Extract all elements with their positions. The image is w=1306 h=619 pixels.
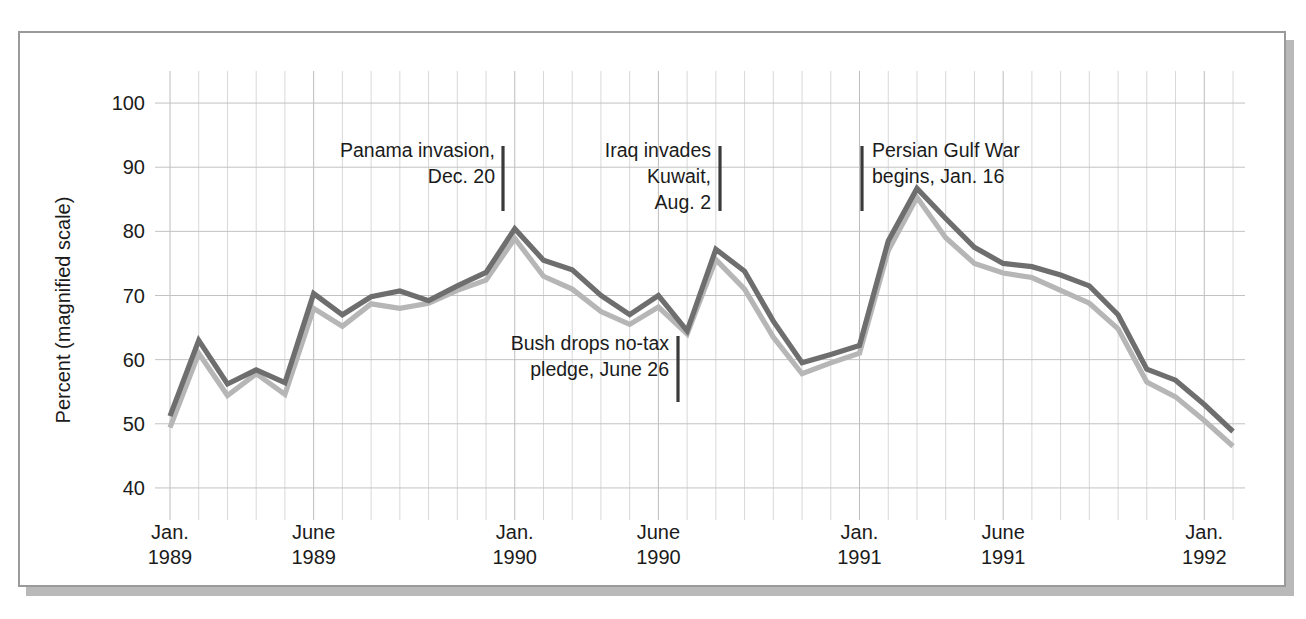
y-tick-label: 90 — [123, 156, 145, 178]
y-tick-label: 40 — [123, 477, 145, 499]
annotation-text-line: Dec. 20 — [428, 165, 495, 187]
x-axis-layer: Jan.1989June1989Jan.1990June1990Jan.1991… — [148, 521, 1227, 568]
x-tick-label-year: 1990 — [493, 546, 538, 568]
y-tick-label: 50 — [123, 413, 145, 435]
x-tick-label-year: 1989 — [291, 546, 336, 568]
series-line-dark-series — [170, 188, 1233, 431]
x-tick-label-year: 1992 — [1182, 546, 1227, 568]
x-tick-label-year: 1991 — [981, 546, 1026, 568]
annotation-text-line: Panama invasion, — [340, 139, 495, 161]
x-tick-label-month: June — [637, 521, 680, 543]
y-tick-label: 80 — [123, 220, 145, 242]
x-tick-label-month: Jan. — [151, 521, 189, 543]
annotation-iraq-kuwait: Iraq invadesKuwait,Aug. 2 — [605, 139, 720, 213]
y-tick-label: 100 — [112, 92, 145, 114]
annotation-bush-no-tax: Bush drops no-taxpledge, June 26 — [511, 332, 678, 402]
annotation-persian-gulf-war: Persian Gulf Warbegins, Jan. 16 — [862, 139, 1020, 211]
x-tick-label-month: Jan. — [496, 521, 534, 543]
x-tick-label-year: 1990 — [636, 546, 681, 568]
y-tick-label: 60 — [123, 349, 145, 371]
y-tick-label: 70 — [123, 285, 145, 307]
series-line-light-series — [170, 197, 1233, 446]
x-tick-label: Jan.1990 — [493, 521, 538, 568]
line-chart-plot: 405060708090100 Jan.1989June1989Jan.1990… — [0, 0, 1306, 619]
x-tick-label-month: Jan. — [1185, 521, 1223, 543]
annotation-text-line: Bush drops no-tax — [511, 332, 670, 354]
annotation-text-line: Persian Gulf War — [872, 139, 1020, 161]
x-tick-label-month: June — [981, 521, 1024, 543]
annotation-text-line: Aug. 2 — [655, 191, 711, 213]
x-tick-label: Jan.1989 — [148, 521, 193, 568]
annotation-text-line: Iraq invades — [605, 139, 711, 161]
y-axis-layer: 405060708090100 — [112, 92, 145, 499]
x-tick-label: June1990 — [636, 521, 681, 568]
annotation-text-line: begins, Jan. 16 — [872, 165, 1004, 187]
x-tick-label-month: Jan. — [841, 521, 879, 543]
x-tick-label: June1991 — [981, 521, 1026, 568]
x-tick-label: Jan.1992 — [1182, 521, 1227, 568]
annotation-text-line: pledge, June 26 — [530, 358, 669, 380]
x-tick-label: June1989 — [291, 521, 336, 568]
annotations-layer: Panama invasion,Dec. 20Iraq invadesKuwai… — [340, 139, 1020, 402]
series-layer — [170, 188, 1233, 446]
x-tick-label-year: 1991 — [837, 546, 882, 568]
annotation-panama: Panama invasion,Dec. 20 — [340, 139, 503, 211]
x-tick-label-year: 1989 — [148, 546, 193, 568]
x-tick-label-month: June — [292, 521, 335, 543]
x-tick-label: Jan.1991 — [837, 521, 882, 568]
y-axis-title: Percent (magnified scale) — [52, 197, 74, 424]
annotation-text-line: Kuwait, — [647, 165, 711, 187]
chart-figure: 405060708090100 Jan.1989June1989Jan.1990… — [0, 0, 1306, 619]
